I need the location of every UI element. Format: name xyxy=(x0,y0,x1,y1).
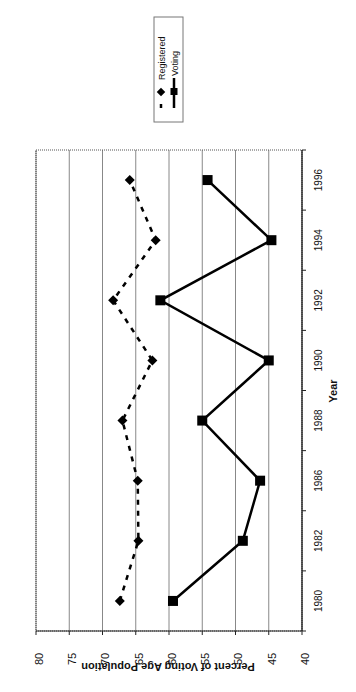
value-axis-title: Percent of Voting Age Population xyxy=(81,661,255,673)
square-marker-icon xyxy=(168,596,178,606)
year-tick-label: 1982 xyxy=(313,529,324,552)
diamond-marker-icon xyxy=(133,476,143,486)
year-axis-tick-labels: 19801982198619881990199219941996 xyxy=(313,169,324,613)
diamond-marker-icon xyxy=(117,416,127,426)
value-tick-label: 40 xyxy=(299,653,311,665)
series-line-voting xyxy=(160,180,271,601)
series-line-registered xyxy=(113,180,156,601)
chart-canvas: 807570656055504540 198019821986198819901… xyxy=(0,0,356,692)
legend-label-voting: Voting xyxy=(170,51,180,76)
square-marker-icon xyxy=(255,476,265,486)
year-tick-label: 1990 xyxy=(313,349,324,372)
plot-area xyxy=(36,150,306,635)
year-tick-label: 1996 xyxy=(313,169,324,192)
square-marker-icon xyxy=(203,175,213,185)
diamond-marker-icon xyxy=(125,175,135,185)
year-axis-title: Year xyxy=(327,379,339,403)
diamond-marker-icon xyxy=(133,536,143,546)
square-marker-icon xyxy=(171,88,178,95)
year-tick-label: 1986 xyxy=(313,469,324,492)
diamond-marker-icon xyxy=(151,235,161,245)
square-marker-icon xyxy=(197,416,207,426)
diamond-marker-icon xyxy=(115,596,125,606)
square-marker-icon xyxy=(266,235,276,245)
square-marker-icon xyxy=(155,295,165,305)
year-tick-label: 1994 xyxy=(313,229,324,252)
legend-label-registered: Registered xyxy=(157,36,167,80)
value-tick-label: 75 xyxy=(66,653,78,665)
square-marker-icon xyxy=(238,536,248,546)
year-tick-label: 1992 xyxy=(313,289,324,312)
square-marker-icon xyxy=(264,355,274,365)
value-tick-label: 80 xyxy=(33,653,45,665)
legend: Registered Voting xyxy=(154,17,183,122)
value-tick-label: 45 xyxy=(266,653,278,665)
year-tick-label: 1988 xyxy=(313,409,324,432)
year-tick-label: 1980 xyxy=(313,589,324,612)
